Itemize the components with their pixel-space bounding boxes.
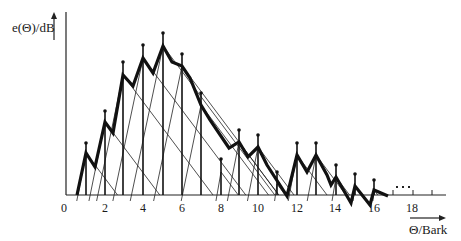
ellipsis bbox=[396, 186, 410, 188]
tone-dot bbox=[256, 133, 260, 137]
x-tick-label: 6 bbox=[179, 201, 185, 216]
tone-dot bbox=[219, 157, 223, 161]
tone-dot bbox=[103, 109, 107, 113]
tone-dot bbox=[372, 178, 376, 182]
x-tick-label: 0 bbox=[61, 201, 67, 216]
x-tick-label: 4 bbox=[140, 201, 146, 216]
tone-dot bbox=[314, 141, 318, 145]
axis-ticks bbox=[393, 190, 432, 195]
y-axis-label-text: e(Θ)/dB bbox=[12, 20, 55, 35]
lower-slope bbox=[181, 105, 201, 201]
tone-dot bbox=[84, 141, 88, 145]
x-tick-label: 8 bbox=[218, 201, 224, 216]
tone-dot bbox=[199, 91, 203, 95]
tone-dot bbox=[180, 52, 184, 56]
excitation-diagram bbox=[0, 0, 461, 241]
x-axis-label: Θ/Bark bbox=[409, 222, 447, 238]
y-axis-label: e(Θ)/dB bbox=[12, 20, 55, 36]
tone-dot bbox=[275, 170, 279, 174]
lower-slope bbox=[154, 66, 182, 201]
tone-lines bbox=[84, 31, 376, 195]
tone-dot bbox=[334, 163, 338, 167]
lower-slope bbox=[227, 142, 239, 201]
x-tick-label: 14 bbox=[329, 201, 341, 216]
upper-slope bbox=[221, 172, 238, 195]
x-tick-label: 16 bbox=[368, 201, 380, 216]
tone-dot bbox=[161, 31, 165, 35]
tone-dot bbox=[237, 128, 241, 132]
tone-dot bbox=[353, 172, 357, 176]
x-tick-label: 2 bbox=[102, 201, 108, 216]
tone-dot bbox=[121, 60, 125, 64]
tone-dot bbox=[141, 43, 145, 47]
x-axis-label-text: Θ/Bark bbox=[409, 222, 447, 237]
x-tick-label: 12 bbox=[291, 201, 303, 216]
tone-dot bbox=[295, 141, 299, 145]
tone-slopes bbox=[77, 46, 378, 201]
upper-slope bbox=[143, 58, 246, 195]
x-tick-label: 18 bbox=[406, 201, 418, 216]
x-tick-label: 10 bbox=[252, 201, 264, 216]
